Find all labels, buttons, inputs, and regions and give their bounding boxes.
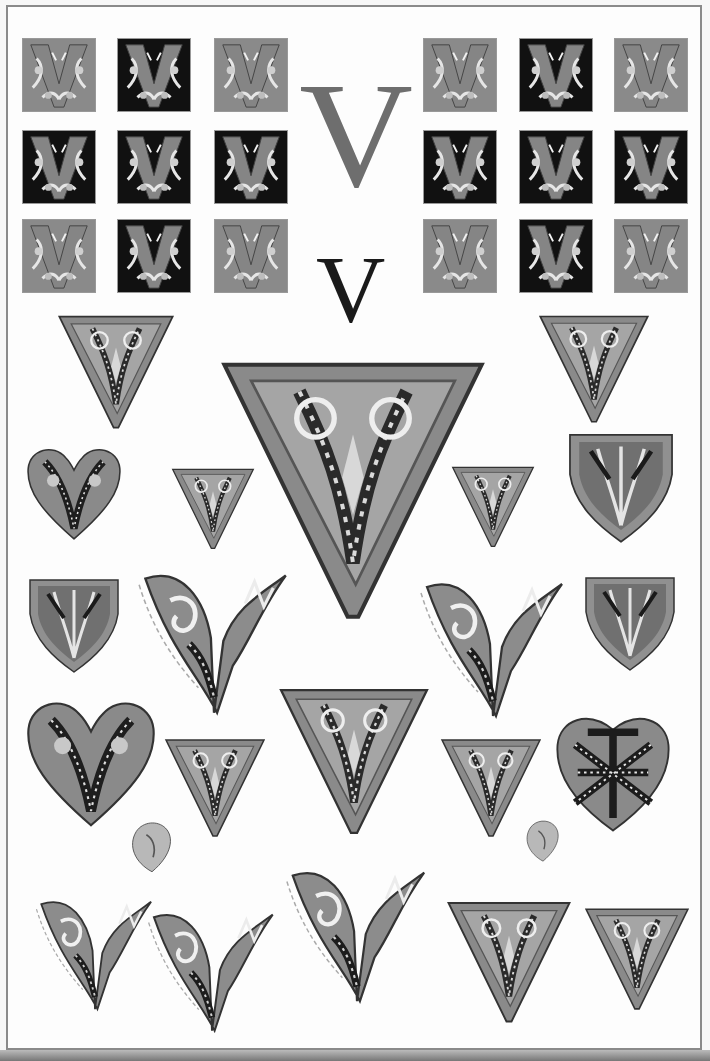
initial-tile-left-1	[22, 38, 96, 112]
initial-tile-right-8	[519, 219, 593, 293]
ornament-v-bottom-4	[436, 898, 582, 1024]
initial-tile-left-6	[214, 130, 288, 204]
ornament-v-shield-3	[580, 572, 680, 672]
initial-tile-right-9	[614, 219, 688, 293]
ornament-v-bottom-3	[284, 826, 430, 1042]
page-bottom-edge	[0, 1050, 710, 1061]
initial-tile-right-3	[614, 38, 688, 112]
ornament-leaf-2	[520, 808, 566, 872]
ornament-v-bottom-1	[34, 882, 156, 1024]
initial-tile-left-3	[214, 38, 288, 112]
ornament-v-crown	[544, 428, 698, 544]
initial-tile-left-2	[117, 38, 191, 112]
ornament-v-shield-1	[22, 430, 126, 552]
initial-tile-left-7	[22, 219, 96, 293]
initial-tile-right-2	[519, 38, 593, 112]
ornament-v-top-right	[498, 312, 690, 424]
ornament-v-top-left	[12, 312, 220, 430]
initial-tile-left-9	[214, 219, 288, 293]
initial-tile-right-1	[423, 38, 497, 112]
initial-tile-right-5	[519, 130, 593, 204]
initial-tile-right-6	[614, 130, 688, 204]
ornament-v-knot	[550, 686, 676, 854]
initial-tile-left-8	[117, 219, 191, 293]
large-letter-v: V	[299, 60, 413, 210]
initial-tile-right-7	[423, 219, 497, 293]
initial-tile-left-5	[117, 130, 191, 204]
small-letter-v: V	[316, 242, 385, 338]
ornament-v-small-tri-2	[450, 464, 536, 548]
ornament-v-bottom-5	[584, 898, 690, 1018]
initial-tile-right-4	[423, 130, 497, 204]
initial-tile-left-4	[22, 130, 96, 204]
ornament-leaf-1	[124, 806, 180, 886]
ornament-v-shield-2	[24, 574, 124, 674]
ornament-v-mid-tri	[278, 684, 430, 836]
ornament-v-bottom-2	[146, 894, 278, 1046]
ornament-v-small-tri-1	[168, 466, 258, 550]
